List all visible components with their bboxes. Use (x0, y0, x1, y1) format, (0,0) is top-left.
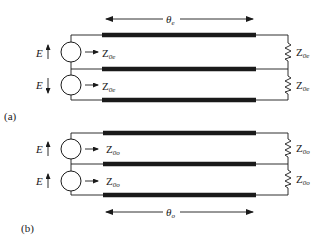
panel-label-a: (a) (4, 110, 17, 123)
source-2a: E Z0e (35, 75, 115, 95)
panel-b: E Z0o E Z0o Z0o Z0o θo (b) (21, 133, 310, 235)
conductors-b (71, 133, 288, 195)
length-arrow-b: θo (106, 206, 253, 220)
impedance-label: Z0e (296, 79, 309, 93)
voltage-label: E (35, 47, 43, 59)
length-arrow-a: θe (106, 13, 253, 27)
impedance-label: Z0o (296, 142, 310, 156)
theta-label-a: θe (166, 13, 175, 27)
coupled-line-diagram: θe E Z0e (0, 0, 329, 240)
theta-label-b: θo (166, 206, 175, 220)
voltage-label: E (35, 143, 43, 155)
source-1a: E Z0e (35, 42, 115, 62)
voltage-label: E (35, 79, 43, 91)
resistor-icon (285, 43, 291, 61)
load-2b: Z0o (285, 170, 310, 188)
resistor-icon (285, 170, 291, 188)
panel-a: θe E Z0e (4, 13, 309, 123)
load-1b: Z0o (285, 139, 310, 157)
impedance-label: Z0o (296, 173, 310, 187)
impedance-label: Z0e (102, 47, 115, 61)
panel-label-b: (b) (21, 222, 34, 235)
impedance-label: Z0e (296, 46, 309, 60)
voltage-label: E (35, 175, 43, 187)
impedance-label: Z0o (106, 175, 120, 189)
resistor-icon (285, 139, 291, 157)
impedance-label: Z0e (102, 80, 115, 94)
source-1b: E Z0o (35, 139, 120, 159)
source-2b: E Z0o (35, 171, 120, 191)
resistor-icon (285, 76, 291, 94)
load-1a: Z0e (285, 43, 309, 61)
impedance-label: Z0o (106, 143, 120, 157)
load-2a: Z0e (285, 76, 309, 94)
